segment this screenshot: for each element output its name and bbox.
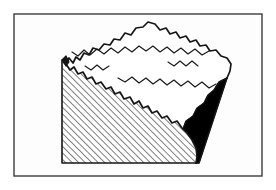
block-diagram-illustration: Hatched block diagram with irregular upp… bbox=[0, 0, 276, 190]
figure-root: Hatched block diagram with irregular upp… bbox=[0, 0, 276, 190]
